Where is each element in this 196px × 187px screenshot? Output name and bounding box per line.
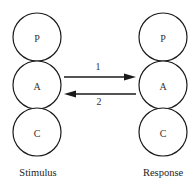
- transaction-1-arrow: 1: [64, 61, 136, 81]
- stimulus-label: Stimulus: [19, 167, 56, 178]
- response-column: P A C Response: [139, 13, 187, 178]
- response-adult-label: A: [159, 81, 167, 92]
- stimulus-parent-label: P: [34, 33, 40, 44]
- ta-diagram: P A C Stimulus P A C Response 1 2: [0, 0, 196, 187]
- stimulus-child-label: C: [34, 128, 41, 139]
- transaction-2-arrow: 2: [64, 91, 136, 108]
- arrow-right-head-icon: [124, 74, 136, 81]
- stimulus-column: P A C Stimulus: [13, 13, 61, 178]
- arrow-left-head-icon: [64, 91, 76, 98]
- stimulus-adult-label: A: [33, 81, 41, 92]
- response-label: Response: [143, 167, 184, 178]
- response-parent-label: P: [160, 33, 166, 44]
- response-child-label: C: [160, 128, 167, 139]
- transaction-2-label: 2: [97, 96, 102, 107]
- transaction-1-label: 1: [96, 61, 101, 72]
